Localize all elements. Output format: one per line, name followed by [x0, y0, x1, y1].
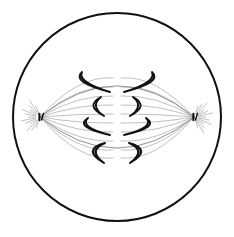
figure-canvas	[0, 0, 234, 237]
background-rect	[0, 0, 234, 237]
cell-division-diagram	[0, 0, 234, 237]
diagram-background	[0, 0, 234, 237]
